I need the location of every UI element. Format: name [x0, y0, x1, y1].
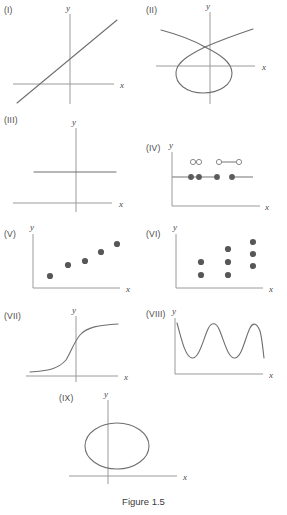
scatter-point [65, 262, 71, 268]
panel-i-y-label: y [65, 3, 70, 13]
panel-iii-x-label: x [118, 199, 123, 209]
panel-vi-x-label: x [268, 284, 273, 294]
panel-viii-y-label: y [171, 306, 176, 316]
panel-vii-label: (VII) [4, 312, 21, 321]
panel-iii-label: (III) [4, 116, 18, 125]
filled-point-4 [229, 174, 235, 180]
filled-point-1 [188, 174, 194, 180]
scatter-point [225, 259, 231, 265]
panel-iv: (IV) x y [143, 132, 287, 222]
panel-vi: (VI) x y [143, 218, 287, 304]
scatter-point [98, 249, 104, 255]
figure-caption: Figure 1.5 [0, 497, 287, 507]
branch-left [161, 30, 205, 47]
panel-v: (V) x y [0, 218, 144, 304]
panel-v-label: (V) [4, 230, 16, 239]
figure-sheet: (I) x y (II) x y (III) x y [0, 0, 287, 515]
panel-vi-label: (VI) [146, 230, 161, 239]
line-increasing [17, 20, 117, 103]
open-point-2 [196, 159, 201, 164]
panel-iv-x-label: x [264, 202, 269, 212]
panel-ii-plot: x y [143, 0, 287, 112]
scatter-point [47, 273, 53, 279]
scatter-point [250, 239, 256, 245]
panel-ii-y-label: y [205, 1, 210, 11]
panel-ii: (II) x y [143, 0, 287, 112]
scatter-point [198, 259, 204, 265]
filled-point-2 [196, 174, 202, 180]
panel-viii-label: (VIII) [146, 310, 166, 319]
panel-i-x-label: x [119, 80, 124, 90]
panel-iv-plot: x y [143, 132, 287, 222]
panel-vii-plot: x y [0, 302, 144, 392]
scatter-point [82, 258, 88, 264]
scatter-point [250, 251, 256, 257]
teardrop-loop [176, 47, 232, 93]
scatter-point [225, 246, 231, 252]
panel-iv-y-label: y [168, 140, 173, 150]
sigmoid-curve [30, 324, 118, 372]
panel-ii-x-label: x [261, 62, 266, 72]
panel-ii-label: (II) [146, 6, 157, 15]
panel-iv-label: (IV) [146, 144, 161, 153]
filled-point-3 [214, 174, 220, 180]
panel-iii-plot: x y [0, 110, 144, 218]
panel-vii: (VII) x y [0, 302, 144, 392]
scatter-point [114, 241, 120, 247]
panel-ix-label: (IX) [59, 394, 74, 403]
panel-v-y-label: y [29, 222, 34, 232]
panel-i-label: (I) [4, 6, 13, 15]
panel-vii-x-label: x [123, 372, 128, 382]
panel-i-plot: x y [0, 0, 144, 112]
open-point-4 [236, 159, 241, 164]
open-point-1 [190, 159, 195, 164]
panel-viii-x-label: x [268, 370, 273, 380]
panel-iii: (III) x y [0, 110, 144, 218]
ellipse-curve [85, 423, 149, 469]
panel-viii: (VIII) x y [143, 302, 287, 392]
panel-vi-plot: x y [143, 218, 287, 304]
panel-v-plot: x y [0, 218, 144, 304]
branch-right [205, 29, 253, 47]
open-point-3 [216, 159, 221, 164]
panel-ix-x-label: x [182, 472, 187, 482]
oscillating-curve [177, 323, 264, 358]
scatter-point [198, 272, 204, 278]
panel-v-x-label: x [125, 284, 130, 294]
scatter-point [225, 272, 231, 278]
panel-vi-y-label: y [172, 222, 177, 232]
panel-vii-y-label: y [71, 305, 76, 315]
panel-ix: (IX) x y [55, 388, 235, 493]
panel-i: (I) x y [0, 0, 144, 112]
panel-ix-y-label: y [103, 389, 108, 399]
scatter-point [250, 263, 256, 269]
panel-ix-plot: x y [55, 388, 235, 493]
panel-iii-y-label: y [71, 117, 76, 127]
